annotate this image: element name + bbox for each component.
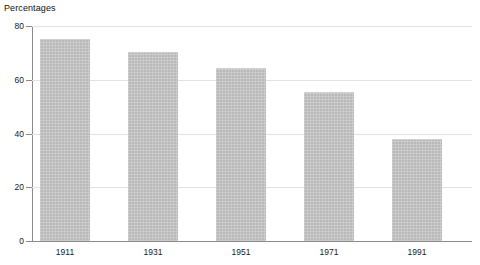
x-axis-label: 1911	[28, 247, 102, 258]
gridline	[32, 26, 472, 27]
y-axis-label-wrap: 20	[0, 183, 24, 192]
axis-baseline	[31, 241, 472, 242]
y-axis-label: 80	[2, 22, 24, 31]
bar	[128, 52, 178, 241]
x-axis-label-wrap: 1991	[380, 247, 454, 258]
y-axis-label-wrap: 40	[0, 130, 24, 139]
x-axis-label-wrap: 1911	[28, 247, 102, 258]
plot-area	[32, 26, 472, 241]
x-axis-label: 1971	[292, 247, 366, 258]
x-axis-label-wrap: 1951	[204, 247, 278, 258]
chart-title: Percentages	[4, 2, 56, 14]
bar	[40, 39, 90, 241]
x-axis-label: 1951	[204, 247, 278, 258]
bar	[216, 68, 266, 241]
y-axis-label-wrap: 0	[0, 237, 24, 246]
bar	[304, 92, 354, 241]
y-axis-label: 60	[2, 76, 24, 85]
bar-chart: Percentages 020406080 191119311951197119…	[0, 0, 480, 265]
y-axis-label-wrap: 60	[0, 76, 24, 85]
x-axis-label-wrap: 1971	[292, 247, 366, 258]
x-axis-label: 1991	[380, 247, 454, 258]
y-axis-label-wrap: 80	[0, 22, 24, 31]
bar	[392, 139, 442, 241]
y-axis-label: 20	[2, 183, 24, 192]
x-axis-label: 1931	[116, 247, 190, 258]
y-axis-label: 0	[2, 237, 24, 246]
x-axis-label-wrap: 1931	[116, 247, 190, 258]
y-axis-label: 40	[2, 130, 24, 139]
